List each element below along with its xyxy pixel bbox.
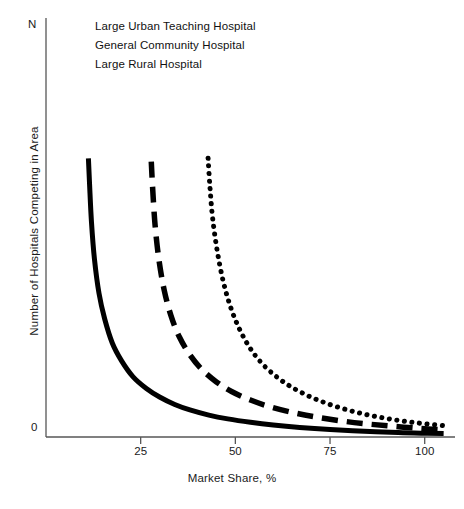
legend-swatch-solid-icon <box>56 19 92 33</box>
y-axis-top-tick-label: N <box>28 18 36 30</box>
x-axis-tick-label: 75 <box>324 445 337 457</box>
data-series-group <box>88 158 443 433</box>
y-axis-zero-tick-label: 0 <box>31 421 37 433</box>
y-axis-label: Number of Hospitals Competing in Area <box>28 126 40 335</box>
x-axis-tick-label: 50 <box>229 445 242 457</box>
legend-item-large-urban-teaching-hospital: Large Urban Teaching Hospital <box>56 17 336 35</box>
y-axis-label-wrap: Number of Hospitals Competing in Area <box>24 121 42 341</box>
legend-label: General Community Hospital <box>95 39 245 51</box>
x-axis-tick-label: 25 <box>134 445 147 457</box>
legend-item-general-community-hospital: General Community Hospital <box>56 36 336 54</box>
x-axis-ticks <box>141 437 425 444</box>
chart-plot-area <box>0 0 464 509</box>
legend-label: Large Urban Teaching Hospital <box>95 20 256 32</box>
data-series-line-3 <box>208 158 444 425</box>
x-axis-tick-label: 100 <box>415 445 434 457</box>
chart-legend: Large Urban Teaching Hospital General Co… <box>56 17 336 74</box>
legend-swatch-dotted-icon <box>56 57 92 71</box>
x-axis-label: Market Share, % <box>0 472 464 484</box>
data-series-line-1 <box>88 158 443 433</box>
chart-figure: Large Urban Teaching Hospital General Co… <box>0 0 464 509</box>
axis-lines <box>46 18 455 437</box>
legend-swatch-dashed-icon <box>56 38 92 52</box>
legend-label: Large Rural Hospital <box>95 58 202 70</box>
legend-item-large-rural-hospital: Large Rural Hospital <box>56 55 336 73</box>
